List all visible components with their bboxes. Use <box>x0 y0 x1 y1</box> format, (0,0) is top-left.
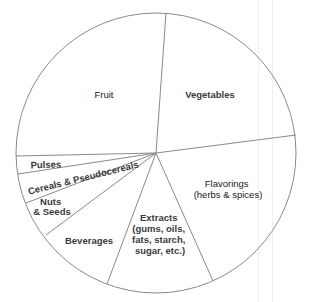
slice-label-flavorings: Flavorings (herbs & spices) <box>194 178 263 200</box>
extracts-line-2: (gums, oils, <box>132 223 185 234</box>
boundary-fruit-vegetables <box>156 13 166 153</box>
boundary-vegetables-flavorings <box>156 135 296 153</box>
slice-label-beverages: Beverages <box>65 235 113 246</box>
slice-label-vegetables: Vegetables <box>185 89 235 100</box>
slice-label-nuts-seeds: Nuts & Seeds <box>33 196 71 217</box>
flavorings-line-2: (herbs & spices) <box>194 189 263 200</box>
slice-label-extracts: Extracts (gums, oils, fats, starch, suga… <box>132 212 188 256</box>
pie-chart: Fruit Vegetables Flavorings (herbs & spi… <box>0 0 310 302</box>
boundary-pulses-fruit <box>16 153 156 156</box>
slice-label-pulses: Pulses <box>30 158 61 170</box>
flavorings-line-1: Flavorings <box>205 178 249 189</box>
extracts-line-1: Extracts <box>140 212 178 223</box>
slice-label-fruit: Fruit <box>95 89 114 100</box>
nuts-line-2: & Seeds <box>33 206 71 217</box>
extracts-line-4: sugar, etc.) <box>135 245 185 256</box>
extracts-line-3: fats, starch, <box>132 234 185 245</box>
